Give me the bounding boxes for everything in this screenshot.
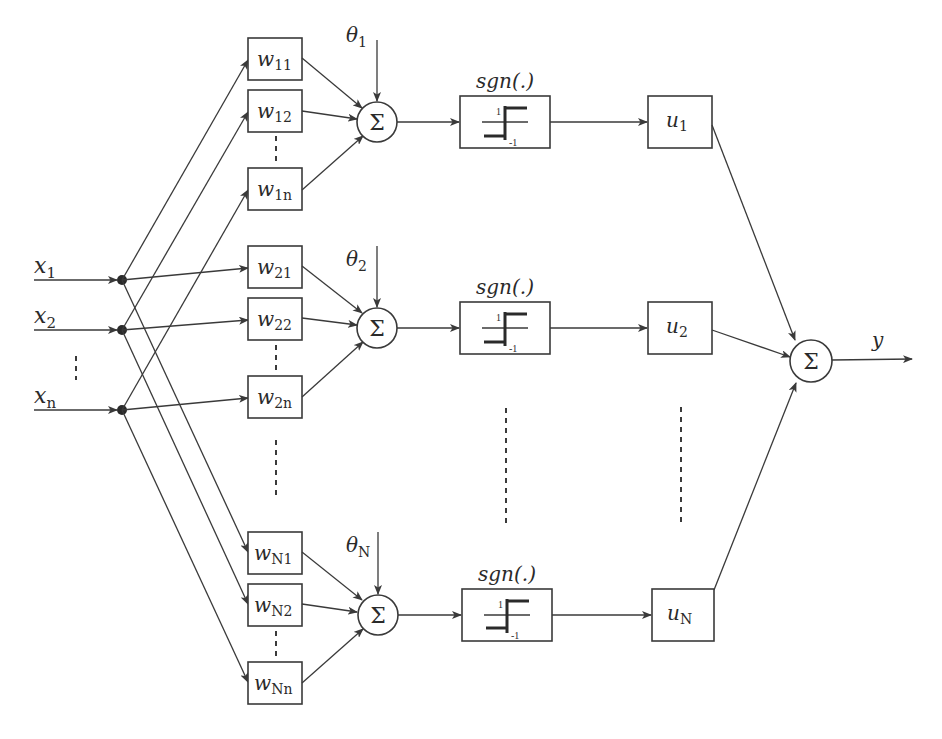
input-x2: x2 bbox=[34, 303, 127, 335]
summation-node-N: Σ bbox=[358, 595, 398, 635]
svg-text:sgn(.): sgn(.) bbox=[478, 562, 536, 586]
svg-text:x2: x2 bbox=[34, 303, 56, 332]
weight-box-w1n: w1n bbox=[248, 168, 302, 210]
sign-activation-N: sgn(.) 1 -1 bbox=[462, 562, 552, 641]
weight-box-w21: w21 bbox=[248, 246, 302, 288]
weight-box-w2n: w2n bbox=[248, 376, 302, 418]
weight-box-wN1: wN1 bbox=[248, 532, 302, 574]
sign-activation-1: sgn(.) 1 -1 bbox=[460, 69, 550, 148]
svg-text:-1: -1 bbox=[509, 137, 517, 148]
sign-activation-2: sgn(.) 1 -1 bbox=[460, 275, 550, 354]
svg-text:1: 1 bbox=[496, 312, 501, 323]
svg-text:Σ: Σ bbox=[369, 110, 385, 135]
weight-box-w22: w22 bbox=[248, 298, 302, 340]
svg-text:-1: -1 bbox=[511, 630, 519, 641]
svg-text:xn: xn bbox=[34, 383, 56, 412]
svg-text:θ2: θ2 bbox=[346, 247, 367, 274]
output-weight-uN: uN bbox=[652, 589, 714, 641]
svg-text:-1: -1 bbox=[509, 343, 517, 354]
summation-node-2: Σ bbox=[357, 308, 397, 348]
svg-text:Σ: Σ bbox=[369, 316, 385, 341]
output-weight-u1: u1 bbox=[648, 96, 712, 148]
input-xn: xn bbox=[34, 383, 127, 415]
svg-text:Σ: Σ bbox=[803, 349, 819, 374]
svg-text:y: y bbox=[871, 328, 884, 352]
hidden-unit-1: w11 w12 w1n θ1 Σ sgn(.) bbox=[248, 23, 712, 210]
hidden-unit-2: w21 w22 w2n θ2 Σ sgn(.) bbox=[248, 246, 712, 418]
weight-box-wN2: wN2 bbox=[248, 584, 302, 626]
hidden-unit-N: wN1 wN2 wNn θN Σ sgn(.) bbox=[248, 532, 714, 704]
svg-text:sgn(.): sgn(.) bbox=[476, 275, 534, 299]
output-weight-u2: u2 bbox=[648, 302, 712, 354]
weight-box-w11: w11 bbox=[248, 38, 302, 80]
svg-text:θN: θN bbox=[346, 533, 370, 560]
weight-box-wNn: wNn bbox=[248, 662, 302, 704]
threshold-theta-N: θN bbox=[346, 532, 378, 594]
threshold-theta-1: θ1 bbox=[346, 23, 377, 101]
svg-text:x1: x1 bbox=[34, 253, 56, 282]
svg-text:1: 1 bbox=[496, 106, 501, 117]
input-to-weight-connections bbox=[122, 60, 248, 682]
neural-network-diagram: x1 x2 xn w11 w12 bbox=[0, 0, 942, 739]
svg-text:1: 1 bbox=[498, 599, 503, 610]
weight-box-w12: w12 bbox=[248, 90, 302, 132]
output-connections bbox=[712, 125, 796, 590]
output-y: y bbox=[832, 328, 912, 360]
threshold-theta-2: θ2 bbox=[346, 246, 377, 307]
output-summation-node: Σ bbox=[790, 340, 832, 382]
svg-text:Σ: Σ bbox=[370, 603, 386, 628]
summation-node-1: Σ bbox=[357, 102, 397, 142]
input-x1: x1 bbox=[34, 253, 127, 285]
svg-text:sgn(.): sgn(.) bbox=[476, 69, 534, 93]
svg-text:θ1: θ1 bbox=[346, 23, 367, 50]
